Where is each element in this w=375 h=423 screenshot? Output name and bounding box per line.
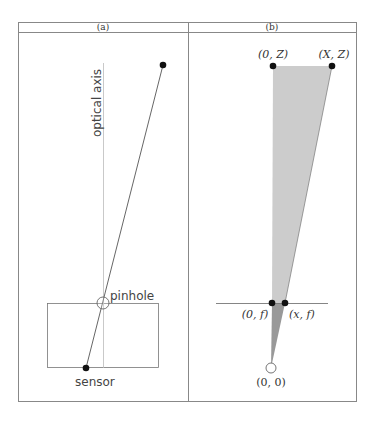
scene-trapezoid [272, 66, 332, 303]
point-X-Z [329, 63, 336, 70]
origin-pinhole-icon [266, 363, 276, 373]
point-0-f [269, 300, 276, 307]
label-0-f: (0, f) [242, 308, 269, 321]
object-point [160, 62, 167, 69]
point-0-Z [270, 63, 277, 70]
image-triangle [271, 303, 285, 368]
label-X-Z: (X, Z) [318, 48, 349, 61]
panel-b-header: (b) [266, 22, 279, 32]
pinhole-camera-figure: (a) (b) optical axis pinhole sensor (0, … [0, 0, 375, 423]
sensor-point [83, 365, 90, 372]
sensor-label: sensor [75, 375, 115, 389]
label-x-f: (x, f) [289, 308, 315, 321]
camera-box [48, 304, 159, 368]
optical-axis-label: optical axis [90, 69, 104, 137]
panel-a-header: (a) [97, 22, 109, 32]
label-0-Z: (0, Z) [258, 48, 288, 61]
pinhole-label: pinhole [110, 289, 154, 303]
pinhole-icon [97, 297, 109, 309]
label-origin: (0, 0) [256, 376, 286, 389]
point-x-f [282, 300, 289, 307]
